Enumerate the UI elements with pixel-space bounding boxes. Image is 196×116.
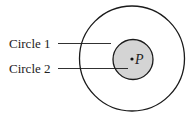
point-p-dot <box>130 57 133 60</box>
point-p-label: P <box>134 52 144 67</box>
circle-1-label: Circle 1 <box>9 36 51 51</box>
circle-2-label: Circle 2 <box>9 61 51 76</box>
concentric-circles-diagram: P Circle 1 Circle 2 <box>0 0 196 116</box>
